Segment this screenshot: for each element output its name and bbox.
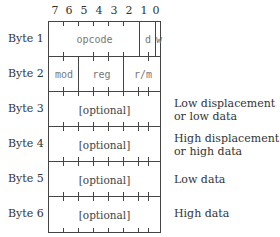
field-mod: mod (49, 57, 79, 92)
byte-6-optional: [optional] (49, 197, 160, 233)
field-d: d (140, 22, 156, 57)
bit-5: 5 (79, 4, 89, 17)
field-opcode: opcode (49, 22, 140, 57)
bit-7: 7 (50, 4, 60, 17)
bit-4: 4 (94, 4, 104, 17)
byte-3-desc-line2: or low data (174, 110, 275, 123)
bit-0: 0 (151, 4, 161, 17)
byte-3-desc-line1: Low displacement (174, 97, 275, 110)
byte-4-description: High displacement or high data (174, 132, 279, 158)
byte-4-desc-line1: High displacement (174, 132, 279, 145)
byte-3-optional: [optional] (49, 92, 160, 127)
row-label-byte-6: Byte 6 (8, 207, 44, 220)
field-reg: reg (79, 57, 124, 92)
byte-5-description: Low data (174, 173, 225, 186)
byte-4-desc-line2: or high data (174, 145, 279, 158)
bit-1: 1 (139, 4, 149, 17)
instruction-format-box: opcode d w mod reg r/m [optional] [optio… (48, 21, 161, 233)
row-label-byte-3: Byte 3 (8, 102, 44, 115)
byte-4-optional: [optional] (49, 127, 160, 162)
row-label-byte-1: Byte 1 (8, 32, 44, 45)
bit-3: 3 (109, 4, 119, 17)
row-label-byte-4: Byte 4 (8, 137, 44, 150)
field-rm: r/m (124, 57, 162, 92)
byte-5-optional: [optional] (49, 162, 160, 197)
field-w: w (156, 22, 162, 57)
byte-6-description: High data (174, 207, 229, 220)
row-label-byte-5: Byte 5 (8, 172, 44, 185)
bit-6: 6 (64, 4, 74, 17)
byte-3-description: Low displacement or low data (174, 97, 275, 123)
bit-2: 2 (124, 4, 134, 17)
row-label-byte-2: Byte 2 (8, 67, 44, 80)
